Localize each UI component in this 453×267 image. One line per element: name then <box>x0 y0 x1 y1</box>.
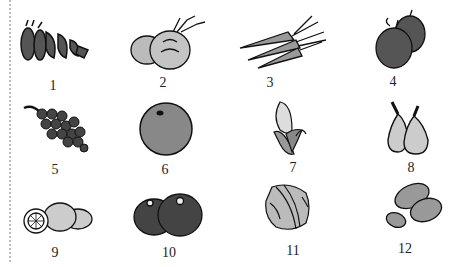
tomatoes-icon <box>132 193 204 239</box>
item-number: 11 <box>278 243 308 259</box>
pea-pods-icon <box>18 18 90 66</box>
onions-icon <box>125 12 210 72</box>
potatoes-icon <box>382 182 444 232</box>
item-number: 1 <box>38 78 68 94</box>
pears-icon <box>386 100 436 158</box>
item-number: 8 <box>396 160 426 176</box>
item-number: 4 <box>378 74 408 90</box>
orange-icon <box>138 101 194 157</box>
apples-icon <box>370 4 430 72</box>
cabbage-icon <box>262 183 312 231</box>
item-number: 3 <box>255 75 285 91</box>
item-number: 12 <box>390 241 420 257</box>
corn-icon <box>268 100 308 158</box>
item-number: 6 <box>150 162 180 178</box>
item-number: 10 <box>154 245 184 261</box>
dotted-margin-line <box>9 0 11 262</box>
carrots-icon <box>238 12 328 70</box>
item-number: 9 <box>40 245 70 261</box>
lemons-icon <box>22 199 94 237</box>
item-number: 2 <box>148 75 178 91</box>
grapes-icon <box>22 104 94 156</box>
item-number: 7 <box>278 160 308 176</box>
item-number: 5 <box>40 162 70 178</box>
